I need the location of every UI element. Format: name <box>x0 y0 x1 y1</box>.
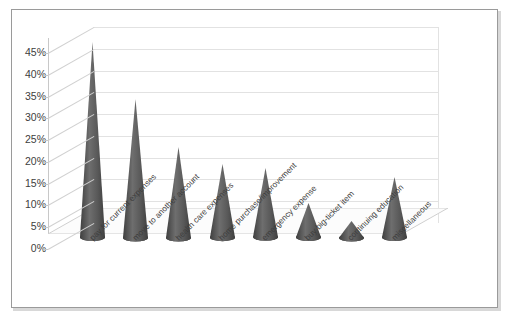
y-axis-tick-mark <box>44 205 48 206</box>
y-axis-tick-labels: 0%5%10%15%20%25%30%35%40%45% <box>4 18 46 303</box>
y-axis-tick-mark <box>44 140 48 141</box>
y-axis-tick-25: 25% <box>8 134 46 145</box>
y-axis-tick-mark <box>44 249 48 250</box>
y-axis-tick-0: 0% <box>8 243 46 254</box>
y-axis-tick-mark <box>44 118 48 119</box>
y-axis-tick-mark <box>44 162 48 163</box>
y-axis-tick-15: 15% <box>8 178 46 189</box>
y-axis-tick-35: 35% <box>8 91 46 102</box>
y-axis-tick-mark <box>44 75 48 76</box>
x-axis-category-labels: pay for current expensesmove to another … <box>48 230 468 310</box>
y-axis-tick-5: 5% <box>8 221 46 232</box>
y-axis-tick-mark <box>44 53 48 54</box>
y-axis-tick-20: 20% <box>8 156 46 167</box>
y-axis-tick-mark <box>44 97 48 98</box>
y-axis-tick-40: 40% <box>8 69 46 80</box>
y-axis-tick-45: 45% <box>8 47 46 58</box>
y-axis-tick-mark <box>44 184 48 185</box>
chart-plot-area: 0%5%10%15%20%25%30%35%40%45% pay for cur… <box>48 18 468 303</box>
chart-3d-scene: 0%5%10%15%20%25%30%35%40%45% pay for cur… <box>48 18 468 303</box>
y-axis-tick-mark <box>44 227 48 228</box>
y-axis-tick-10: 10% <box>8 199 46 210</box>
y-axis-tick-30: 30% <box>8 112 46 123</box>
chart-figure: 0%5%10%15%20%25%30%35%40%45% pay for cur… <box>0 0 518 320</box>
